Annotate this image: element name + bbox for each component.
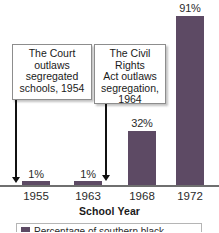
x-axis-line	[0, 185, 219, 187]
callout-court: The Court outlaws segregated schools, 19…	[12, 44, 92, 100]
legend: Percentage of southern black	[16, 223, 202, 232]
bar-value-1963: 1%	[74, 168, 102, 180]
x-tick-1972: 1972	[166, 190, 214, 202]
callout-civil-rights: The Civil Rights Act outlaws segregation…	[94, 44, 166, 104]
bar-1972	[176, 16, 204, 185]
legend-label: Percentage of southern black	[34, 226, 164, 233]
x-tick-1955: 1955	[12, 190, 60, 202]
bar-value-1972: 91%	[174, 2, 206, 14]
legend-swatch-icon	[21, 227, 30, 232]
x-axis-title: School Year	[0, 205, 219, 217]
bar-chart: 1% 1% 32% 91% The Court outlaws segregat…	[0, 0, 219, 232]
bar-value-1968: 32%	[126, 117, 158, 129]
bar-1968	[128, 131, 156, 185]
bar-value-1955: 1%	[22, 168, 50, 180]
x-tick-1968: 1968	[118, 190, 166, 202]
x-tick-1963: 1963	[64, 190, 112, 202]
